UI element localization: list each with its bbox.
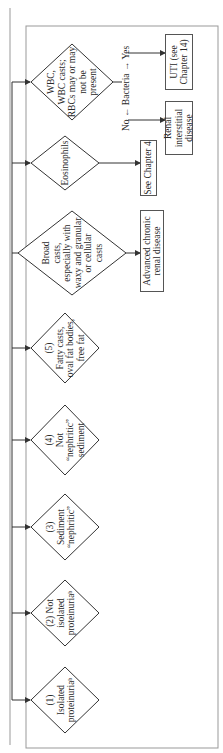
diamond-line: WBC casts; — [57, 37, 68, 127]
diamond-line: (5) — [44, 313, 55, 383]
diamond-line: WBC, — [46, 37, 57, 127]
diamond-line: or cellular — [83, 208, 94, 298]
diamond-line: Eosinophils — [60, 133, 71, 193]
diamond-wbc: WBC, WBC casts; RBCs may or may not be p… — [46, 37, 99, 127]
diamond-line: Fatty casts, — [55, 313, 66, 383]
diamond-line: casts, — [52, 208, 63, 298]
box-renal-interstitial-disease: Renal interstitial disease — [165, 101, 193, 155]
bacteria-yes-label: Yes — [121, 46, 131, 60]
diamond-not-nephritic-sediment: (4) Not “nephritic” sediment — [44, 410, 86, 470]
diamond-line: Sediment — [56, 497, 67, 557]
diamond-line: (1) — [45, 670, 56, 730]
diamond-line: casts — [94, 208, 105, 298]
box-uti: UTI (see Chapter 14) — [165, 34, 193, 90]
diamond-line: (3) — [45, 497, 56, 557]
bacteria-decision: No ← Bacteria → Yes — [121, 46, 131, 131]
diamond-line: Not — [55, 410, 66, 470]
diamond-line: Isolated — [56, 670, 67, 730]
diamond-line: free fat — [76, 313, 87, 383]
diamond-line: especially with — [62, 208, 73, 298]
diamond-line: not be — [78, 37, 89, 127]
diamond-not-isolated-proteinuria: (2) Not isolated proteinuriaᵇ — [45, 583, 77, 643]
box-see-chapter-4: See Chapter 4 — [140, 140, 157, 196]
diamond-line: “nephritic” — [66, 497, 77, 557]
diamond-sediment-nephritic: (3) Sediment “nephritic” — [45, 497, 77, 557]
diamond-fatty-casts: (5) Fatty casts, oval fat bodies, free f… — [44, 313, 86, 383]
diamond-line: oval fat bodies, — [65, 313, 76, 383]
diamond-line: (4) — [44, 410, 55, 470]
bacteria-no-label: No — [121, 119, 131, 131]
diamond-line: (2) Not — [45, 583, 56, 643]
diamond-line: RBCs may or may — [67, 37, 78, 127]
diamond-line: “nephritic” — [65, 410, 76, 470]
box-advanced-chronic-renal-disease: Advanced chronic renal disease — [140, 210, 164, 292]
diamond-line: proteinuriaᵇ — [66, 670, 77, 730]
diamond-line: sediment — [76, 410, 87, 470]
diamond-line: present — [88, 37, 99, 127]
diamond-isolated-proteinuria: (1) Isolated proteinuriaᵇ — [45, 670, 77, 730]
diamond-line: waxy and granular — [73, 208, 84, 298]
bacteria-label: Bacteria — [121, 73, 131, 105]
diamond-eosinophils: Eosinophils — [60, 133, 71, 193]
diamond-broad-casts: Broad casts, especially with waxy and gr… — [41, 208, 104, 298]
diamond-line: isolated — [56, 583, 67, 643]
diamond-line: Broad — [41, 208, 52, 298]
flowchart: (1) Isolated proteinuriaᵇ (2) Not isolat… — [0, 0, 223, 753]
diamond-line: proteinuriaᵇ — [66, 583, 77, 643]
